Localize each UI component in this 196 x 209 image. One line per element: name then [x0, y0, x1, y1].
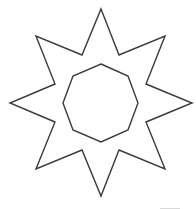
faint-mark [160, 208, 180, 209]
star-diagram [0, 0, 196, 209]
eight-point-star [10, 9, 192, 196]
inner-octagon [63, 64, 138, 142]
